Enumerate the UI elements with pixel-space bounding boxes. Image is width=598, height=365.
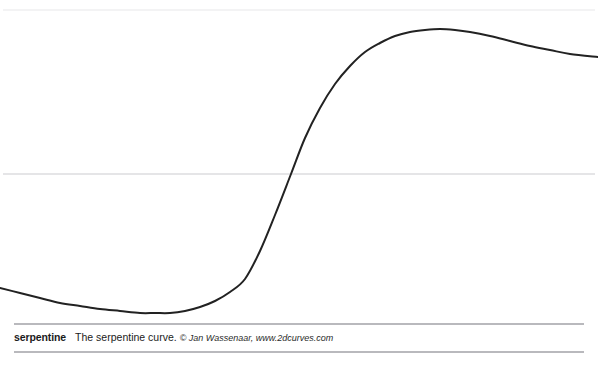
caption-curve-name: serpentine [14, 331, 66, 343]
caption-text: serpentineThe serpentine curve.© Jan Was… [14, 330, 333, 345]
caption-rule-bottom [14, 351, 584, 353]
caption-block: serpentineThe serpentine curve.© Jan Was… [0, 318, 598, 365]
caption-credit: © Jan Wassenaar, www.2dcurves.com [180, 333, 334, 343]
serpentine-curve [0, 29, 598, 313]
caption-rule-top [14, 323, 584, 325]
figure-page: serpentineThe serpentine curve.© Jan Was… [0, 0, 598, 365]
serpentine-curve-plot [0, 0, 598, 323]
plot-area [0, 0, 598, 323]
caption-description: The serpentine curve. [75, 331, 177, 343]
